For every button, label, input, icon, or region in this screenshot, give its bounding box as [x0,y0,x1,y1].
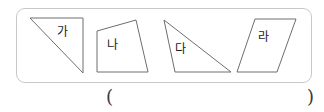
shape-label-ga: 가 [57,26,68,38]
shape-label-ra: 라 [258,31,269,43]
answer-close-paren: ) [307,88,314,106]
shape-label-da: 다 [175,43,186,55]
worksheet-figure: 가 나 다 라 ( ) [0,0,324,112]
shape-panel [16,8,312,83]
shape-label-na: 나 [107,39,118,51]
answer-blank[interactable] [118,88,306,108]
answer-open-paren: ( [106,88,113,106]
